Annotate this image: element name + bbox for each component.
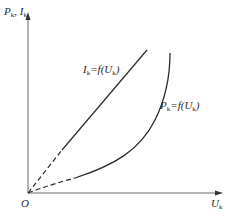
origin-label: O [21, 198, 29, 209]
y-axis-label: Pk, Ik [4, 6, 27, 19]
pk-series-dashed [28, 178, 75, 193]
chart-canvas [0, 0, 236, 223]
x-axis-arrow-icon [215, 191, 223, 196]
pk-series-label: Pk=f(Uk) [160, 100, 200, 113]
x-axis-label: Uk [211, 198, 222, 211]
ik-series-label: Ik=f(Uk) [83, 64, 119, 77]
